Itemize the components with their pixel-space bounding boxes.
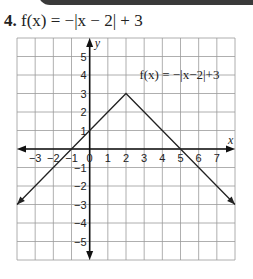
svg-text:−1: −1 <box>74 162 87 174</box>
svg-text:1: 1 <box>105 152 111 164</box>
svg-text:−3: −3 <box>74 199 87 211</box>
svg-text:3: 3 <box>141 152 147 164</box>
svg-text:7: 7 <box>214 152 220 164</box>
svg-text:4: 4 <box>159 152 165 164</box>
svg-text:2: 2 <box>81 106 87 118</box>
svg-text:2: 2 <box>123 152 129 164</box>
y-axis-label: y <box>94 36 101 50</box>
svg-text:5: 5 <box>81 51 87 63</box>
svg-text:−3: −3 <box>29 152 42 164</box>
svg-text:−2: −2 <box>74 180 87 192</box>
svg-text:4: 4 <box>81 69 87 81</box>
x-axis-label: x <box>227 133 234 147</box>
svg-text:5: 5 <box>177 152 183 164</box>
svg-text:0: 0 <box>87 152 93 164</box>
function-annotation: f(x) = −|x−2|+3 <box>139 67 219 82</box>
svg-text:6: 6 <box>196 152 202 164</box>
svg-text:−4: −4 <box>74 217 87 229</box>
svg-text:−5: −5 <box>74 236 87 248</box>
svg-text:3: 3 <box>81 88 87 100</box>
function-graph: −3−2−10123456754321−1−2−3−4−5 x y f(x) =… <box>0 0 253 279</box>
